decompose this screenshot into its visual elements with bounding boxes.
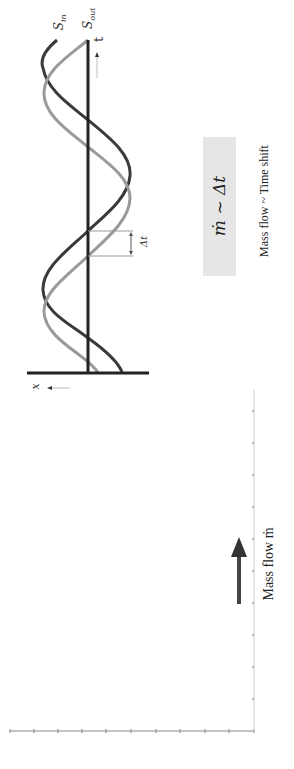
delta-arrowhead-top [129,232,133,236]
t-arrowhead-icon [95,52,99,57]
x-axis-label: x [29,383,42,389]
s-in-curve [42,40,130,372]
diagram-canvas [0,0,294,769]
mass-flow-label: Mass flow ṁ [261,514,279,614]
delta-t-label: Δt [138,236,149,247]
s-out-label: Sout [81,7,97,28]
s-in-label: Sin [52,14,68,30]
mass-flow-arrow-icon [231,537,247,557]
x-arrowhead-icon [47,386,52,390]
caption: Mass flow ~ Time shift [257,131,273,271]
t-axis-label: t [91,37,106,42]
delta-arrowhead-bottom [129,251,133,255]
formula-text: ṁ ~ Δt [209,154,231,258]
